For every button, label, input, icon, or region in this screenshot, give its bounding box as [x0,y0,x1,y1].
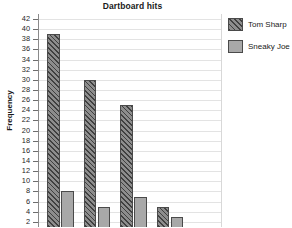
y-axis-tick-label: 28 [8,85,30,94]
y-axis-tick-label: 34 [8,55,30,64]
y-axis-tick-label: 6 [8,197,30,206]
gridline [39,19,222,20]
y-axis-tick-label: 2 [8,217,30,226]
plot-area [38,14,222,227]
gridline [39,90,222,91]
bar-sneaky-joe-2 [134,197,147,228]
gridline [39,39,222,40]
y-axis-tick-label: 20 [8,126,30,135]
gridline [39,70,222,71]
y-axis-tick-label: 8 [8,186,30,195]
y-axis-tick-label: 14 [8,156,30,165]
gridline [39,80,222,81]
gridline [39,100,222,101]
y-axis-tick-label: 32 [8,65,30,74]
y-axis-tick-label: 10 [8,176,30,185]
chart-legend: Tom Sharp Sneaky Joe [228,18,290,53]
chart-container: Dartboard hits Frequency 246810121416182… [0,0,292,227]
gridline [39,60,222,61]
y-axis-tick-label: 36 [8,44,30,53]
legend-item-sneaky-joe[interactable]: Sneaky Joe [228,40,290,53]
gridline [39,49,222,50]
bar-tom-sharp-1 [84,80,97,227]
legend-swatch-icon-sneaky-joe [228,40,243,53]
y-axis-tick-label: 12 [8,166,30,175]
chart-title: Dartboard hits [40,1,225,11]
y-axis-tick-label: 40 [8,24,30,33]
y-axis-tick-label: 4 [8,207,30,216]
legend-label-sneaky-joe: Sneaky Joe [248,42,290,51]
y-axis-tick-label: 18 [8,136,30,145]
y-axis-tick-label: 26 [8,95,30,104]
bar-sneaky-joe-1 [98,207,111,227]
bar-sneaky-joe-3 [171,217,184,227]
y-axis-tick-label: 38 [8,34,30,43]
plot-right-border [221,14,222,227]
y-axis-tick-label: 16 [8,146,30,155]
legend-swatch-icon-tom-sharp [228,18,243,31]
legend-label-tom-sharp: Tom Sharp [248,20,287,29]
y-axis-tick-label: 30 [8,75,30,84]
y-axis-tick-label: 22 [8,115,30,124]
bar-tom-sharp-2 [120,105,133,227]
bar-tom-sharp-0 [47,34,60,227]
y-axis-tick-label: 24 [8,105,30,114]
y-axis-tick-label: 42 [8,14,30,23]
gridline [39,29,222,30]
legend-item-tom-sharp[interactable]: Tom Sharp [228,18,290,31]
bar-tom-sharp-3 [157,207,170,227]
bar-sneaky-joe-0 [61,191,74,227]
